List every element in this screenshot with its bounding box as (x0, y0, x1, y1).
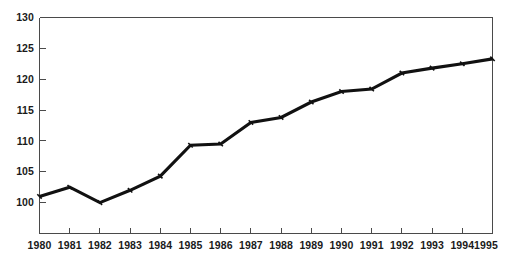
x-axis-label-1986: 1986 (209, 239, 233, 251)
y-axis-label-0: 130 (16, 11, 34, 23)
x-axis-label-1991: 1991 (360, 239, 384, 251)
x-axis-label-1984: 1984 (148, 239, 172, 251)
x-axis-label-1993: 1993 (420, 239, 444, 251)
y-axis-label-3: 115 (17, 104, 34, 116)
data-line-index (40, 59, 493, 203)
data-series-group (37, 57, 494, 205)
y-axis-label-4: 110 (17, 135, 34, 147)
y-axis-ticks (40, 18, 46, 203)
x-axis-label-1983: 1983 (118, 239, 142, 251)
y-axis-label-6: 100 (16, 196, 34, 208)
y-axis-label-5: 105 (16, 165, 34, 177)
line-chart: 130 125 120 115 110 105 100 198019811982… (0, 0, 507, 261)
x-axis-label-1990: 1990 (330, 239, 354, 251)
x-axis-ticks (40, 228, 493, 234)
x-axis-label-1987: 1987 (239, 239, 263, 251)
x-axis-label-1995: 1995 (474, 239, 498, 251)
data-markers (37, 57, 494, 205)
y-axis-labels: 130 125 120 115 110 105 100 (16, 11, 34, 208)
x-axis-label-1989: 1989 (299, 239, 323, 251)
y-axis-label-2: 120 (16, 73, 34, 85)
x-axis-label-1982: 1982 (88, 239, 112, 251)
x-axis-label-1981: 1981 (58, 239, 82, 251)
x-axis-label-1985: 1985 (179, 239, 203, 251)
x-axis-label-1992: 1992 (390, 239, 414, 251)
x-axis-label-1980: 1980 (28, 239, 52, 251)
y-axis-label-1: 125 (16, 42, 34, 54)
x-axis-label-1994: 1994 (450, 239, 474, 251)
chart-container: 130 125 120 115 110 105 100 198019811982… (0, 0, 507, 261)
x-axis-label-1988: 1988 (269, 239, 293, 251)
x-axis-labels: 1980198119821983198419851986198719881989… (28, 239, 498, 251)
